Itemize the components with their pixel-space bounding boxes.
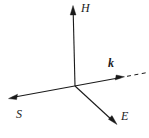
axis-label-E: E [121,110,128,122]
arrowhead-k [115,75,124,80]
axis-line-H [70,6,76,87]
arrowhead-H [70,6,76,16]
arrowhead-S [9,94,18,99]
axis-line-E [75,86,117,125]
dashed-line-k [127,73,147,77]
axis-line-h-segment [73,12,75,86]
axis-line-sk-segment [12,78,121,98]
axis-line-e-segment [75,86,113,121]
axis-label-k: k [108,57,114,69]
axis-line-S-k [12,78,121,98]
axis-label-S: S [16,108,22,120]
axis-label-H: H [81,2,90,14]
arrowhead-E [108,116,117,125]
vector-diagram: H k E S [0,0,149,138]
dashed-extension-k [127,73,147,77]
